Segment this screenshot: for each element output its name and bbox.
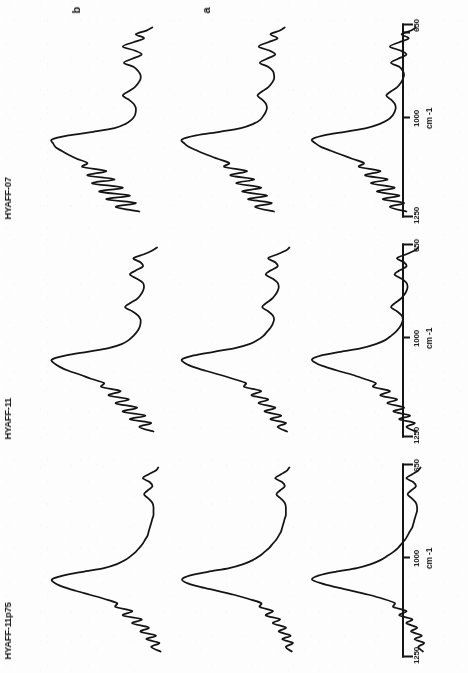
axis-tick-label-1-0: 1250: [412, 427, 421, 444]
axis-tick-label-0-0: 1250: [412, 647, 421, 664]
axis-tick-label-2-1: 1000: [412, 110, 421, 127]
axis-tick-label-2-0: 1250: [412, 207, 421, 224]
axis-rule-1: [402, 243, 404, 437]
axis-block-0: 1250 1000 650 cm -1: [394, 449, 438, 667]
trace-0-c: [52, 467, 161, 651]
axis-tick-label-0-1: 1000: [412, 550, 421, 567]
axis-tick-right-2: [402, 31, 410, 33]
axis-tick-label-1-1: 1000: [412, 330, 421, 347]
axis-tick-mid-1: [402, 336, 410, 338]
axis-tick-label-0-2: 650: [412, 459, 421, 472]
axis-unit-label-2: cm -1: [424, 107, 434, 128]
trace-0-b: [182, 467, 293, 651]
axis-unit-label-0: cm -1: [424, 547, 434, 568]
axis-unit-label-1: cm -1: [424, 327, 434, 348]
axis-strip: 1250 1000 650 cm -1 1250 1000 650 cm -1: [394, 0, 468, 673]
rotated-figure-plate: HYAFF-11p75 HYAFF-11 HYAFF-07: [0, 0, 468, 673]
axis-tick-mid-2: [402, 116, 410, 118]
axis-block-1: 1250 1000 650 cm -1: [394, 229, 438, 447]
trace-2-b: [181, 27, 284, 211]
figure-root: HYAFF-11p75 HYAFF-11 HYAFF-07: [0, 0, 468, 673]
axis-rule-0: [402, 463, 404, 657]
trace-1-c: [51, 247, 157, 431]
trace-1-b: [182, 247, 290, 431]
trace-2-c: [51, 27, 152, 211]
axis-rule-2: [402, 23, 404, 217]
axis-tick-mid-0: [402, 556, 410, 558]
axis-tick-label-2-2: 650: [412, 19, 421, 32]
axis-block-2: 1250 1000 650 cm -1: [394, 9, 438, 227]
axis-tick-label-1-2: 650: [412, 239, 421, 252]
